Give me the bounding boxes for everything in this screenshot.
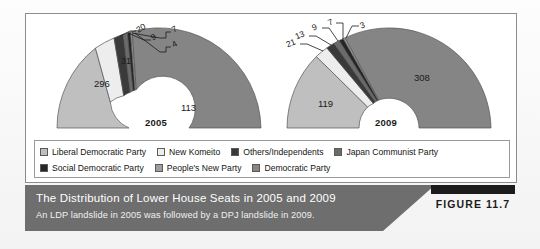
legend: Liberal Democratic Party New Komeito Oth… bbox=[34, 140, 510, 178]
legend-item-peoples-new-party[interactable]: People's New Party bbox=[155, 164, 242, 173]
label-ldp-2009: 119 bbox=[318, 98, 333, 109]
legend-label: People's New Party bbox=[167, 164, 242, 173]
label-dpj-2009: 308 bbox=[414, 72, 430, 83]
figure-panel: 2005 296 31 113 20 9 7 4 bbox=[25, 13, 517, 183]
legend-item-others-independents[interactable]: Others/Independents bbox=[231, 148, 323, 157]
caption-title: The Distribution of Lower House Seats in… bbox=[36, 192, 336, 204]
leader-7 bbox=[336, 23, 343, 39]
legend-row-2: Social Democratic Party People's New Par… bbox=[40, 160, 504, 176]
chart-2009: 2009 119 308 21 13 9 7 3 bbox=[274, 18, 504, 136]
legend-swatch-icon bbox=[252, 164, 260, 172]
legend-row-1: Liberal Democratic Party New Komeito Oth… bbox=[40, 144, 504, 160]
caption-subtitle: An LDP landslide in 2005 was followed by… bbox=[36, 210, 315, 220]
legend-label: Japan Communist Party bbox=[346, 148, 438, 157]
legend-item-new-komeito[interactable]: New Komeito bbox=[157, 148, 220, 157]
legend-item-japan-communist-party[interactable]: Japan Communist Party bbox=[334, 148, 438, 157]
legend-swatch-icon bbox=[334, 148, 342, 156]
legend-swatch-icon bbox=[40, 164, 48, 172]
label-komeito-2005: 31 bbox=[121, 56, 131, 66]
figure-number-rule bbox=[431, 185, 515, 194]
legend-label: Social Democratic Party bbox=[52, 164, 144, 173]
legend-label: Others/Independents bbox=[243, 148, 323, 157]
leader-13 bbox=[309, 36, 331, 45]
label-ldp-2005: 296 bbox=[94, 78, 110, 89]
figure-number-label: FIGURE 11.7 bbox=[431, 198, 515, 210]
legend-item-social-democratic-party[interactable]: Social Democratic Party bbox=[40, 164, 144, 173]
caption-area: The Distribution of Lower House Seats in… bbox=[25, 185, 517, 231]
charts-area: 2005 296 31 113 20 9 7 4 bbox=[26, 14, 518, 136]
leader-21 bbox=[300, 44, 323, 51]
legend-label: Democratic Party bbox=[264, 164, 330, 173]
donut-2009-slices bbox=[287, 28, 491, 128]
chart-2005: 2005 296 31 113 20 9 7 4 bbox=[44, 18, 274, 136]
legend-label: Liberal Democratic Party bbox=[52, 148, 146, 157]
legend-swatch-icon bbox=[155, 164, 163, 172]
legend-label: New Komeito bbox=[169, 148, 220, 157]
figure-number-block: FIGURE 11.7 bbox=[431, 185, 515, 210]
legend-swatch-icon bbox=[40, 148, 48, 156]
legend-swatch-icon bbox=[231, 148, 239, 156]
legend-item-democratic-party[interactable]: Democratic Party bbox=[252, 164, 330, 173]
legend-swatch-icon bbox=[157, 148, 165, 156]
donut-2005-slices bbox=[57, 28, 261, 128]
leader-9 bbox=[322, 28, 338, 41]
label-dpj-2005: 113 bbox=[181, 102, 196, 113]
chart-2009-center-label: 2009 bbox=[375, 117, 397, 128]
legend-item-liberal-democratic-party[interactable]: Liberal Democratic Party bbox=[40, 148, 146, 157]
chart-2005-center-label: 2005 bbox=[145, 117, 167, 128]
slice-dpj-2005 bbox=[132, 28, 261, 128]
